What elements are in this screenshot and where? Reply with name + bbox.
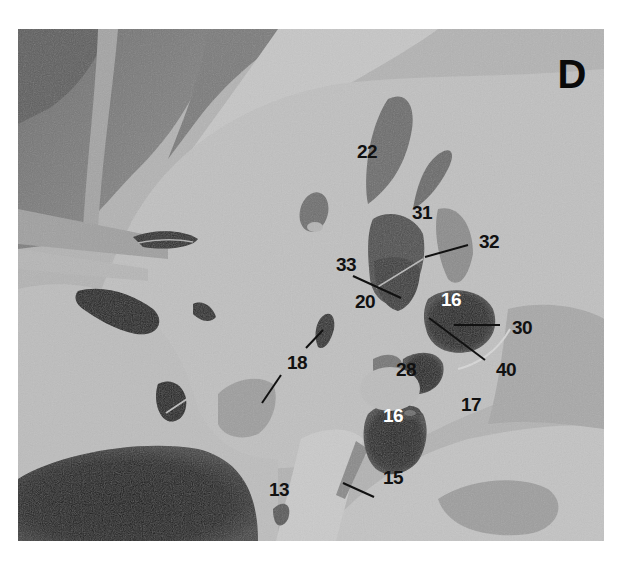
label-33: 33 xyxy=(336,255,356,274)
label-17: 17 xyxy=(461,395,481,414)
label-16-upper: 16 xyxy=(441,290,461,309)
anatomical-figure-panel-d: D 22 31 32 33 20 16 30 40 18 28 17 16 15… xyxy=(0,0,620,563)
label-22: 22 xyxy=(357,142,377,161)
leader-lines xyxy=(0,0,620,563)
label-32: 32 xyxy=(479,232,499,251)
leader-line-32 xyxy=(425,245,468,257)
label-28: 28 xyxy=(396,360,416,379)
label-40: 40 xyxy=(496,360,516,379)
label-20: 20 xyxy=(355,292,375,311)
label-31: 31 xyxy=(412,203,432,222)
label-15: 15 xyxy=(383,468,403,487)
panel-letter: D xyxy=(558,54,587,94)
label-18: 18 xyxy=(287,353,307,372)
label-16-lower: 16 xyxy=(383,406,403,425)
label-13: 13 xyxy=(269,480,289,499)
leader-line-18-upper xyxy=(306,330,323,348)
leader-line-15 xyxy=(343,483,374,497)
leader-line-18-lower xyxy=(262,375,281,403)
label-30: 30 xyxy=(512,318,532,337)
